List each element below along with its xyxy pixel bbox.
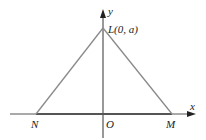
y-axis-label: y <box>107 5 113 17</box>
y-axis-arrow-icon <box>100 9 106 18</box>
point-n-label: N <box>30 118 39 130</box>
point-l-label: L(0, a) <box>107 23 138 36</box>
segment-lm <box>103 28 172 114</box>
point-m-label: M <box>165 118 176 130</box>
x-axis-label: x <box>189 100 195 112</box>
coordinate-diagram: y x L(0, a) N O M <box>0 0 206 140</box>
origin-label: O <box>106 118 114 130</box>
segment-ln <box>36 28 103 114</box>
